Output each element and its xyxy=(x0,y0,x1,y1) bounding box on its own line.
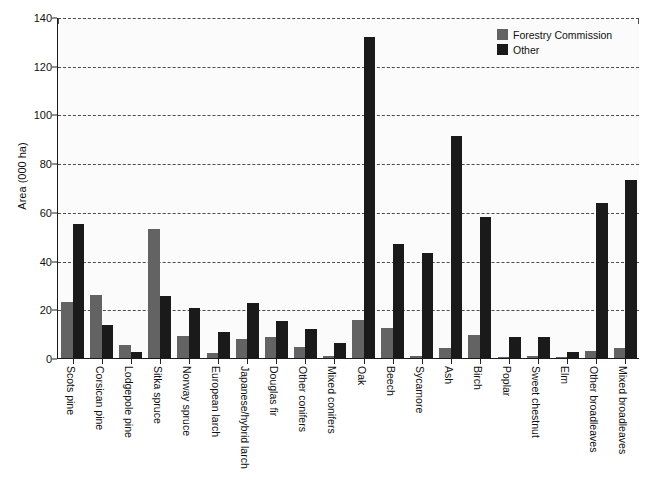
y-axis: Area (000 ha) 020406080100120140 xyxy=(0,0,52,494)
x-axis-tick-mark xyxy=(538,359,539,364)
x-axis-tick-label: Other conifers xyxy=(298,366,309,432)
x-axis-tick-mark xyxy=(451,359,452,364)
x-axis-tick-mark xyxy=(625,359,626,364)
legend-swatch-icon xyxy=(497,44,508,55)
bar-group xyxy=(87,18,116,358)
bar-group xyxy=(204,18,233,358)
x-axis-tick-label: Mixed broadleaves xyxy=(618,366,629,454)
bar-group xyxy=(582,18,611,358)
x-axis-tick-label: Ash xyxy=(443,366,454,384)
x-axis-tick-label: Sitka spruce xyxy=(152,366,163,424)
x-axis-tick-mark xyxy=(364,359,365,364)
legend-item-other: Other xyxy=(497,43,612,56)
x-axis-tick-mark xyxy=(102,359,103,364)
x-axis-tick-label: Norway spruce xyxy=(181,366,192,436)
plot-area xyxy=(57,18,639,359)
bar-group xyxy=(116,18,145,358)
bar-group xyxy=(145,18,174,358)
bar xyxy=(294,347,306,358)
bar xyxy=(73,224,85,358)
x-axis-tick-mark xyxy=(218,359,219,364)
x-axis-tick-mark xyxy=(393,359,394,364)
bar xyxy=(119,345,131,358)
y-axis-tick-label: 40 xyxy=(12,256,52,268)
bar xyxy=(352,320,364,358)
bar-group xyxy=(349,18,378,358)
bar xyxy=(509,337,521,358)
legend-label: Forestry Commission xyxy=(513,29,612,41)
bar xyxy=(276,321,288,358)
bar xyxy=(90,295,102,358)
y-axis-tick-label: 20 xyxy=(12,304,52,316)
bar-group xyxy=(291,18,320,358)
x-axis-tick-mark xyxy=(276,359,277,364)
bar xyxy=(381,328,393,358)
x-axis-tick-label: Sycamore xyxy=(414,366,425,413)
x-axis-tick-mark xyxy=(596,359,597,364)
x-axis-tick-mark xyxy=(422,359,423,364)
bar xyxy=(556,357,568,358)
x-axis-tick-label: Beech xyxy=(385,366,396,396)
x-axis-tick-label: Mixed conifers xyxy=(327,366,338,434)
bar-group xyxy=(378,18,407,358)
y-axis-tick-label: 80 xyxy=(12,158,52,170)
x-axis-tick-mark xyxy=(305,359,306,364)
bar xyxy=(305,329,317,358)
bar-group xyxy=(58,18,87,358)
bar-group xyxy=(611,18,640,358)
x-axis-tick-mark xyxy=(567,359,568,364)
bar-group xyxy=(233,18,262,358)
bar xyxy=(334,343,346,358)
y-axis-tick-label: 60 xyxy=(12,207,52,219)
x-axis-tick-label: Corsican pine xyxy=(94,366,105,430)
x-axis-tick-label: Oak xyxy=(356,366,367,385)
bar xyxy=(439,348,451,358)
bar-group xyxy=(262,18,291,358)
bar-group xyxy=(407,18,436,358)
bar xyxy=(585,351,597,358)
y-axis-tick-label: 120 xyxy=(12,61,52,73)
bar xyxy=(61,302,73,358)
bar xyxy=(498,357,510,358)
x-axis-tick-label: Scots pine xyxy=(65,366,76,415)
bar xyxy=(189,308,201,358)
bar xyxy=(625,180,637,358)
bar-group xyxy=(436,18,465,358)
x-axis-tick-label: European larch xyxy=(211,366,222,437)
x-axis-tick-label: Lodgepole pine xyxy=(123,366,134,438)
bar-group xyxy=(174,18,203,358)
bar-group xyxy=(524,18,553,358)
x-axis-tick-mark xyxy=(160,359,161,364)
bar xyxy=(207,353,219,358)
x-axis-tick-label: Douglas fir xyxy=(269,366,280,416)
x-axis-tick-mark xyxy=(73,359,74,364)
x-axis-tick-label: Japanese/hybrid larch xyxy=(240,366,251,469)
bar xyxy=(218,332,230,358)
x-axis-tick-mark xyxy=(189,359,190,364)
bar xyxy=(527,356,539,358)
x-axis-tick-label: Birch xyxy=(472,366,483,390)
x-axis-tick-mark xyxy=(334,359,335,364)
x-axis-tick-label: Sweet chestnut xyxy=(531,366,542,438)
y-axis-tick-label: 100 xyxy=(12,109,52,121)
x-axis-tick-mark xyxy=(247,359,248,364)
bar xyxy=(480,217,492,358)
legend-swatch-icon xyxy=(497,29,508,40)
bar-group xyxy=(495,18,524,358)
bar xyxy=(364,37,376,359)
bar xyxy=(323,356,335,358)
bar xyxy=(177,336,189,358)
bar xyxy=(614,348,626,358)
bar xyxy=(422,253,434,358)
chart-title-cropped xyxy=(60,0,490,4)
legend-label: Other xyxy=(513,44,539,56)
bar xyxy=(236,339,248,358)
bar xyxy=(102,325,114,358)
bar xyxy=(131,352,143,358)
x-axis-tick-label: Other broadleaves xyxy=(589,366,600,452)
bar xyxy=(468,335,480,358)
x-axis-tick-label: Poplar xyxy=(502,366,513,396)
bar xyxy=(265,337,277,358)
bar-chart: Area (000 ha) 020406080100120140 Scots p… xyxy=(0,0,645,494)
bar-group xyxy=(553,18,582,358)
